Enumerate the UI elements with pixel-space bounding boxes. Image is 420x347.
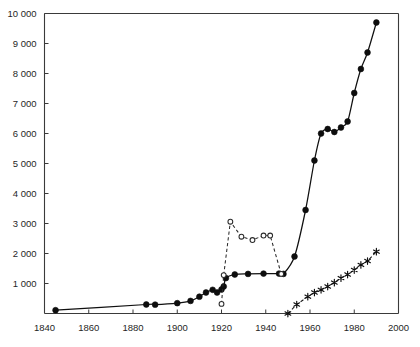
y-tick-label: 9 000 [13, 38, 37, 49]
y-tick-label: 2 000 [13, 248, 37, 259]
data-point-marker [261, 271, 267, 277]
data-point-marker [279, 272, 284, 277]
data-point-marker [325, 126, 331, 132]
x-tick-label: 1960 [299, 322, 320, 333]
data-point-marker [358, 66, 364, 72]
y-tick-label: 1 000 [13, 278, 37, 289]
data-point-marker [221, 273, 226, 278]
line-chart: 1 0002 0003 0004 0005 0006 0007 0008 000… [0, 0, 420, 347]
y-tick-label: 10 000 [7, 8, 36, 19]
data-point-marker [373, 20, 379, 26]
data-point-marker [331, 129, 337, 135]
data-point-marker [203, 290, 209, 296]
chart-background [0, 0, 420, 347]
x-axis-tick-labels: 184018601880190019201940196019802000 [34, 322, 409, 333]
chart-figure: 1 0002 0003 0004 0005 0006 0007 0008 000… [0, 0, 420, 347]
x-tick-label: 1940 [255, 322, 276, 333]
data-point-marker [232, 272, 238, 278]
x-tick-label: 1860 [78, 322, 99, 333]
y-tick-label: 7 000 [13, 98, 37, 109]
y-tick-label: 8 000 [13, 68, 37, 79]
data-point-marker [143, 302, 149, 308]
data-point-marker [221, 284, 227, 290]
x-tick-label: 1900 [167, 322, 188, 333]
x-tick-label: 1840 [34, 322, 55, 333]
data-point-marker [219, 302, 224, 307]
data-point-marker [345, 119, 351, 125]
data-point-marker [292, 254, 298, 260]
data-point-marker [228, 219, 233, 224]
y-tick-label: 3 000 [13, 218, 37, 229]
data-point-marker [174, 300, 180, 306]
data-point-marker [188, 298, 194, 304]
data-point-marker [318, 131, 324, 137]
x-tick-label: 1920 [211, 322, 232, 333]
data-point-marker [53, 307, 59, 313]
data-point-marker [365, 50, 371, 56]
data-point-marker [338, 125, 344, 131]
data-point-marker [196, 294, 202, 300]
x-tick-label: 1880 [122, 322, 143, 333]
data-point-marker [351, 90, 357, 96]
data-point-marker [268, 233, 273, 238]
data-point-marker [245, 271, 251, 277]
y-tick-label: 5 000 [13, 158, 37, 169]
x-tick-label: 2000 [388, 322, 409, 333]
data-point-marker [239, 234, 244, 239]
data-point-marker [303, 207, 309, 213]
x-tick-label: 1980 [344, 322, 365, 333]
y-tick-label: 4 000 [13, 188, 37, 199]
data-point-marker [250, 238, 255, 243]
data-point-marker [312, 158, 318, 164]
y-tick-label: 6 000 [13, 128, 37, 139]
data-point-marker [261, 233, 266, 238]
data-point-marker [152, 302, 158, 308]
